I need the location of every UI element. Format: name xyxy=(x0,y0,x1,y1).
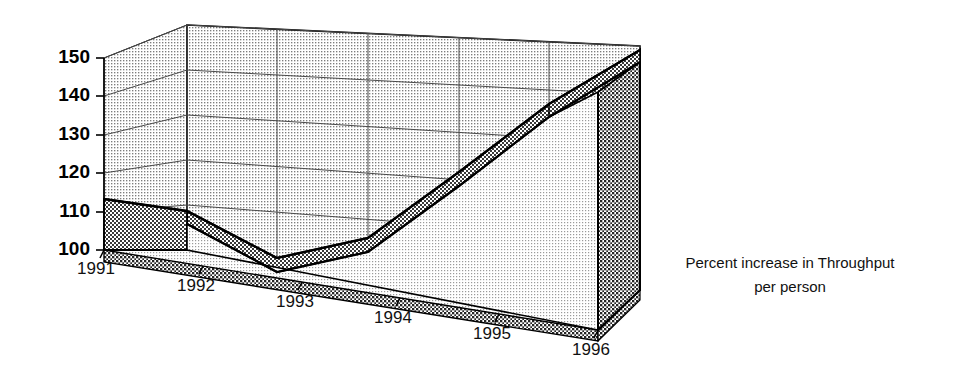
y-axis-labels: 150 140 130 120 110 100 xyxy=(58,46,90,259)
chart-container: 150 140 130 120 110 100 1991 1992 1993 1… xyxy=(0,0,977,375)
three-d-area-chart: 150 140 130 120 110 100 1991 1992 1993 1… xyxy=(0,0,977,375)
value-axis xyxy=(96,58,104,250)
legend-label-line1: Percent increase in Throughput xyxy=(685,254,895,271)
x-axis-label-1996: 1996 xyxy=(572,340,610,359)
y-axis-label-150: 150 xyxy=(58,46,90,67)
ribbon-right-endcap xyxy=(598,50,640,330)
y-axis-label-100: 100 xyxy=(58,238,90,259)
y-axis-label-110: 110 xyxy=(59,200,90,221)
x-axis-label-1995: 1995 xyxy=(473,324,511,343)
x-axis-label-1993: 1993 xyxy=(276,292,314,311)
legend: Percent increase in Throughput per perso… xyxy=(685,254,895,295)
legend-label-line2: per person xyxy=(754,278,826,295)
y-axis-ticks xyxy=(96,58,104,250)
y-axis-label-140: 140 xyxy=(58,84,90,105)
x-axis-label-1992: 1992 xyxy=(177,276,215,295)
x-axis-label-1991: 1991 xyxy=(77,259,115,278)
y-axis-label-120: 120 xyxy=(58,161,90,182)
x-axis-label-1994: 1994 xyxy=(374,308,412,327)
y-axis-label-130: 130 xyxy=(58,123,90,144)
